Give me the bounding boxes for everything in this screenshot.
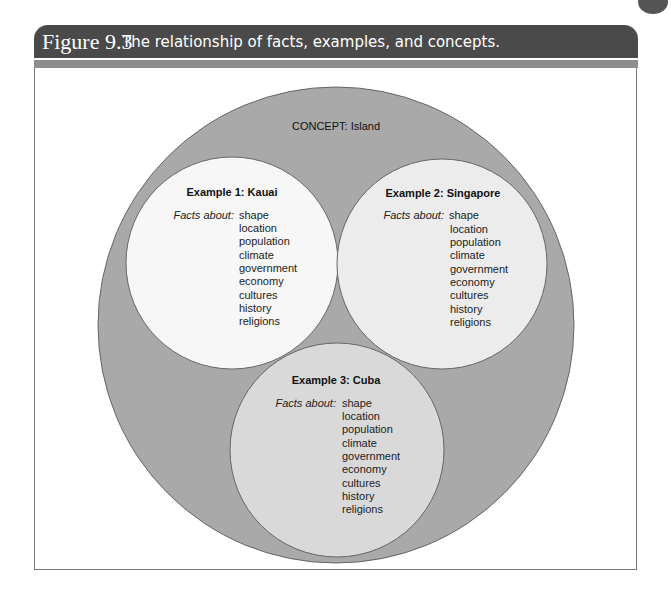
example-3-fact: population [342,423,393,435]
example-2-fact: population [450,236,501,248]
example-3-fact: cultures [342,477,381,489]
example-2-fact: government [450,263,508,275]
example-1-facts-label: Facts about: [173,209,234,221]
example-1-fact: religions [239,315,280,327]
example-1-fact: economy [239,275,284,287]
example-2-fact: shape [449,209,479,221]
example-3-fact: location [342,410,380,422]
example-2-fact: location [450,223,488,235]
example-1-fact: population [239,235,290,247]
example-3-fact: government [342,450,400,462]
concept-diagram: CONCEPT: Island Example 1: Kauai Facts a… [0,0,671,597]
example-1-group: Example 1: Kauai Facts about: shape loca… [126,157,338,369]
concept-label: CONCEPT: Island [292,120,380,132]
example-3-fact: history [342,490,375,502]
example-2-title: Example 2: Singapore [386,187,501,199]
example-2-fact: religions [450,316,491,328]
example-3-fact: religions [342,503,383,515]
example-1-fact: government [239,262,297,274]
example-1-fact: location [239,222,277,234]
example-2-fact: cultures [450,289,489,301]
example-3-fact: economy [342,463,387,475]
example-3-fact: shape [342,397,372,409]
example-1-fact: shape [239,209,269,221]
example-3-group: Example 3: Cuba Facts about: shape locat… [230,343,444,557]
example-2-fact: history [450,303,483,315]
example-3-title: Example 3: Cuba [292,374,382,386]
example-2-facts-label: Facts about: [383,209,444,221]
example-3-fact: climate [342,437,377,449]
example-1-fact: history [239,302,272,314]
example-2-fact: climate [450,249,485,261]
example-2-group: Example 2: Singapore Facts about: shape … [337,159,547,369]
example-3-facts-label: Facts about: [275,397,336,409]
example-1-title: Example 1: Kauai [186,186,277,198]
example-2-fact: economy [450,276,495,288]
example-1-fact: cultures [239,289,278,301]
example-1-fact: climate [239,249,274,261]
